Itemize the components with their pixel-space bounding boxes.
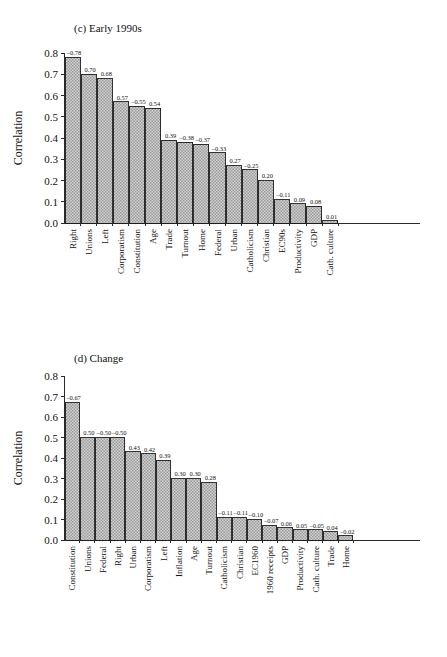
x-axis-category-label: Corporatism bbox=[116, 229, 126, 274]
y-axis-tick-label: 0.7 bbox=[44, 391, 58, 403]
chart-panel-early-1990s: (c) Early 1990s 0.00.10.20.30.40.50.60.7… bbox=[0, 14, 447, 330]
y-axis-tick-label: 0.5 bbox=[44, 111, 58, 123]
bar-value-label: 0.50 bbox=[83, 429, 94, 436]
bar bbox=[278, 528, 292, 540]
bar-value-label: –0.07 bbox=[263, 517, 279, 524]
y-axis-tick-label: 0.2 bbox=[44, 493, 58, 505]
x-axis-category-label: Left bbox=[159, 546, 169, 561]
bar-value-label: 0.54 bbox=[149, 100, 161, 107]
bar-value-label: –0.38 bbox=[179, 134, 194, 141]
x-axis-category-label: Cath. culture bbox=[311, 546, 321, 593]
bar-value-label: –0.11 bbox=[233, 509, 248, 516]
bar bbox=[293, 530, 307, 540]
x-axis-category-label: Age bbox=[148, 229, 158, 244]
bar bbox=[97, 79, 112, 224]
bar-value-label: –0.10 bbox=[248, 511, 263, 518]
bar bbox=[81, 74, 96, 223]
bar-value-label: –0.05 bbox=[309, 522, 324, 529]
x-axis-category-label: EC1960 bbox=[250, 546, 260, 576]
bar bbox=[126, 452, 140, 540]
y-axis-tick-label: 0.4 bbox=[44, 452, 58, 464]
x-axis-category-label: 1960 receipts bbox=[265, 546, 275, 595]
x-axis-category-label: Constitution bbox=[67, 546, 77, 591]
bar bbox=[80, 438, 94, 541]
bar-value-label: 0.09 bbox=[294, 196, 305, 203]
bar-value-label: 0.43 bbox=[129, 444, 140, 451]
bar-chart-early-1990s: 0.00.10.20.30.40.50.60.70.8Correlation–0… bbox=[0, 14, 447, 330]
bar bbox=[65, 57, 80, 223]
y-axis-tick-label: 0.1 bbox=[44, 196, 58, 208]
bar-value-label: –0.50 bbox=[96, 429, 111, 436]
x-axis-category-label: Unions bbox=[83, 546, 93, 573]
x-axis-category-label: Left bbox=[100, 229, 110, 244]
bar bbox=[171, 479, 185, 541]
x-axis-category-label: Inflation bbox=[174, 546, 184, 577]
bar bbox=[210, 153, 225, 223]
x-axis-category-label: Catholicism bbox=[219, 546, 229, 590]
bar bbox=[339, 536, 353, 540]
bar bbox=[323, 532, 337, 540]
bar-value-label: –0.11 bbox=[218, 509, 233, 516]
y-axis-tick-label: 0.8 bbox=[44, 370, 58, 382]
y-axis-tick-label: 0.6 bbox=[44, 90, 58, 102]
bar bbox=[226, 166, 241, 223]
bar bbox=[162, 140, 177, 223]
x-axis-category-label: Urban bbox=[128, 546, 138, 569]
x-axis-category-label: Age bbox=[189, 546, 199, 561]
y-axis-tick-label: 0.0 bbox=[44, 534, 58, 546]
bar bbox=[323, 221, 338, 223]
bar bbox=[65, 403, 79, 540]
x-axis-category-label: Christian bbox=[261, 229, 271, 262]
y-axis-tick-label: 0.4 bbox=[44, 132, 58, 144]
x-axis-category-label: Right bbox=[113, 546, 123, 567]
x-axis-category-label: Right bbox=[68, 229, 78, 250]
bar-value-label: 0.39 bbox=[159, 452, 170, 459]
bar-value-label: 0.20 bbox=[262, 172, 273, 179]
bar bbox=[146, 108, 161, 223]
bar bbox=[187, 479, 201, 541]
bar bbox=[232, 517, 246, 540]
bar-value-label: 0.04 bbox=[326, 524, 338, 531]
bar bbox=[263, 526, 277, 540]
bar bbox=[95, 438, 109, 541]
x-axis-category-label: Trade bbox=[164, 229, 174, 250]
chart-panel-change: (d) Change 0.00.10.20.30.40.50.60.70.8Co… bbox=[0, 344, 447, 657]
x-axis-category-label: GDP bbox=[280, 546, 290, 564]
x-axis-category-label: Catholicism bbox=[245, 229, 255, 273]
x-axis-category-label: Home bbox=[197, 229, 207, 251]
bar bbox=[113, 102, 128, 223]
y-axis-tick-label: 0.7 bbox=[44, 68, 58, 80]
bar bbox=[258, 181, 273, 224]
bar-value-label: 0.42 bbox=[144, 446, 155, 453]
bar bbox=[290, 204, 305, 223]
bar-value-label: 0.06 bbox=[281, 520, 292, 527]
x-axis-category-label: Unions bbox=[84, 229, 94, 256]
x-axis-category-label: Productivity bbox=[295, 546, 305, 591]
y-axis-tick-label: 0.3 bbox=[44, 153, 58, 165]
y-axis-tick-label: 0.1 bbox=[44, 514, 58, 526]
x-axis-category-label: GDP bbox=[309, 229, 319, 247]
bar-value-label: 0.01 bbox=[326, 213, 337, 220]
bar-value-label: 0.27 bbox=[229, 157, 241, 164]
bar-value-label: 0.28 bbox=[205, 474, 216, 481]
y-axis-tick-label: 0.5 bbox=[44, 432, 58, 444]
bar-value-label: –0.67 bbox=[65, 394, 81, 401]
bar-value-label: 0.05 bbox=[296, 522, 307, 529]
bar-value-label: –0.33 bbox=[211, 145, 226, 152]
bar bbox=[307, 206, 322, 223]
y-axis-tick-label: 0.2 bbox=[44, 175, 58, 187]
bar bbox=[274, 200, 289, 223]
x-axis-category-label: Home bbox=[341, 546, 351, 568]
bar-value-label: –0.02 bbox=[339, 528, 354, 535]
x-axis-category-label: Cath. culture bbox=[325, 229, 335, 276]
bar bbox=[308, 530, 322, 540]
bar-value-label: –0.78 bbox=[66, 49, 81, 56]
bar-value-label: 0.70 bbox=[85, 66, 96, 73]
bar-value-label: –0.25 bbox=[243, 162, 258, 169]
y-axis-tick-label: 0.8 bbox=[44, 47, 58, 59]
x-axis-category-label: Turnout bbox=[204, 546, 214, 575]
bar-value-label: –0.55 bbox=[130, 98, 145, 105]
x-axis-category-label: Constitution bbox=[132, 229, 142, 274]
bar bbox=[247, 520, 261, 541]
y-axis-tick-label: 0.0 bbox=[44, 217, 58, 229]
